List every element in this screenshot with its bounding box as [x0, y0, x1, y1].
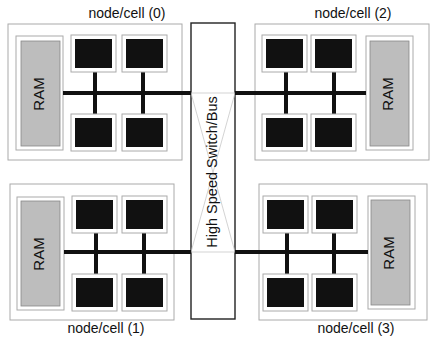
svg-text:CPU: CPU — [321, 206, 348, 221]
svg-text:CPU: CPU — [272, 284, 299, 299]
node-cell-2: node/cell (2) RAM CPU CPU CPU CPU — [235, 5, 429, 160]
ram-label: RAM — [379, 77, 396, 110]
cpu: CPU — [122, 114, 167, 151]
ram-label: RAM — [30, 237, 47, 270]
node-cell-3: RAM CPU CPU CPU CPU node/cell (3) — [235, 184, 427, 336]
svg-text:CPU: CPU — [81, 284, 108, 299]
svg-text:CPU: CPU — [81, 206, 108, 221]
cpu: CPU — [312, 274, 357, 311]
node-cell-1: RAM CPU CPU CPU CPU node/cell (1) — [10, 184, 191, 336]
cpu: CPU — [72, 274, 117, 311]
ram-label: RAM — [30, 77, 47, 110]
ram-module: RAM — [17, 197, 64, 310]
svg-text:CPU: CPU — [320, 124, 347, 139]
cpu: CPU — [72, 196, 117, 233]
svg-text:CPU: CPU — [80, 45, 107, 60]
ram-label: RAM — [380, 236, 397, 269]
node-label: node/cell (0) — [88, 5, 165, 21]
high-speed-switch: High Speed Switch/Bus — [191, 23, 235, 319]
ram-module: RAM — [366, 36, 413, 150]
cpu: CPU — [311, 114, 356, 151]
cpu: CPU — [311, 35, 356, 72]
node-label: node/cell (1) — [67, 320, 144, 336]
node-cell-0: node/cell (0) RAM CPU CPU CPU CPU — [8, 5, 191, 160]
node-label: node/cell (3) — [317, 320, 394, 336]
node-label: node/cell (2) — [314, 5, 391, 21]
cpu: CPU — [312, 196, 357, 233]
numa-diagram: High Speed Switch/Bus node/cell (0) RAM … — [0, 0, 436, 345]
cpu: CPU — [122, 35, 167, 72]
ram-module: RAM — [368, 196, 415, 309]
svg-text:CPU: CPU — [80, 124, 107, 139]
svg-text:CPU: CPU — [131, 124, 158, 139]
svg-text:CPU: CPU — [131, 45, 158, 60]
cpu: CPU — [71, 114, 116, 151]
svg-text:CPU: CPU — [321, 284, 348, 299]
cpu: CPU — [262, 35, 307, 72]
switch-label: High Speed Switch/Bus — [204, 96, 220, 248]
svg-text:CPU: CPU — [271, 45, 298, 60]
svg-text:CPU: CPU — [272, 206, 299, 221]
svg-text:CPU: CPU — [131, 206, 158, 221]
svg-text:CPU: CPU — [271, 124, 298, 139]
cpu: CPU — [71, 35, 116, 72]
cpu: CPU — [263, 274, 308, 311]
cpu: CPU — [122, 274, 167, 311]
cpu: CPU — [262, 114, 307, 151]
svg-text:CPU: CPU — [131, 284, 158, 299]
cpu: CPU — [122, 196, 167, 233]
ram-module: RAM — [16, 36, 63, 150]
svg-text:CPU: CPU — [320, 45, 347, 60]
cpu: CPU — [263, 196, 308, 233]
